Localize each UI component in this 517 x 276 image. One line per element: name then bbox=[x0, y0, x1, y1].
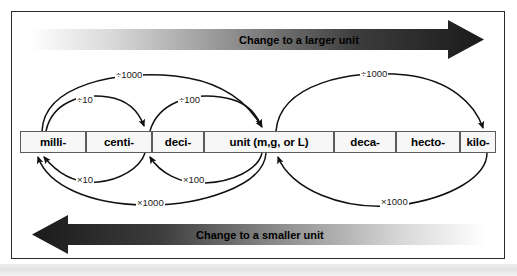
arc-divide-1000-left bbox=[42, 75, 262, 131]
arc-label-divide-1000-left: ÷1000 bbox=[115, 69, 143, 80]
arc-label-divide-10: ÷10 bbox=[76, 94, 94, 105]
arc-divide-10 bbox=[46, 96, 144, 131]
unit-label: unit (m,g, or L) bbox=[230, 136, 309, 148]
unit-box-hecto: hecto- bbox=[396, 131, 460, 153]
arc-label-divide-100: ÷100 bbox=[178, 94, 201, 105]
unit-label: kilo- bbox=[466, 136, 489, 148]
unit-box-base-unit: unit (m,g, or L) bbox=[204, 131, 334, 153]
arc-multiply-10 bbox=[44, 153, 145, 182]
unit-box-milli: milli- bbox=[20, 131, 86, 153]
arc-divide-100 bbox=[150, 96, 261, 131]
arc-label-multiply-10: ×10 bbox=[76, 174, 94, 185]
arc-multiply-100 bbox=[150, 153, 262, 183]
arc-label-divide-1000-right: ÷1000 bbox=[360, 68, 388, 79]
unit-label: centi- bbox=[104, 136, 134, 148]
arc-divide-1000-right bbox=[276, 74, 483, 131]
unit-label: hecto- bbox=[411, 136, 445, 148]
arc-label-multiply-100: ×100 bbox=[182, 174, 205, 185]
unit-label: deca- bbox=[350, 136, 380, 148]
arc-label-multiply-1000-right: ×1000 bbox=[380, 196, 409, 207]
unit-box-centi: centi- bbox=[86, 131, 152, 153]
unit-box-kilo: kilo- bbox=[460, 131, 496, 153]
unit-box-deci: deci- bbox=[152, 131, 204, 153]
page-bottom-shadow bbox=[0, 264, 517, 276]
top-banner-label: Change to a larger unit bbox=[239, 34, 359, 46]
unit-label: deci- bbox=[165, 136, 191, 148]
bottom-banner-label: Change to a smaller unit bbox=[196, 229, 324, 241]
unit-label: milli- bbox=[40, 136, 66, 148]
metric-conversion-figure: milli- centi- deci- unit (m,g, or L) dec… bbox=[0, 0, 517, 276]
arc-label-multiply-1000-left: ×1000 bbox=[136, 197, 165, 208]
unit-box-deca: deca- bbox=[334, 131, 396, 153]
